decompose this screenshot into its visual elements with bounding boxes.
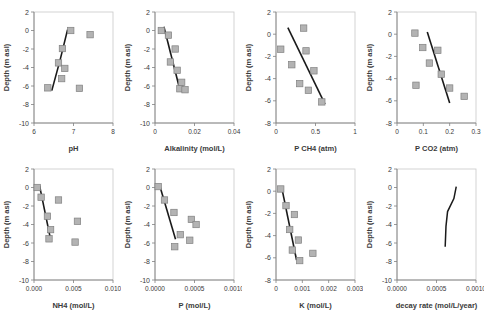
y-tick-label: -4 [386, 75, 392, 82]
y-tick-label: -10 [19, 277, 29, 284]
data-point [167, 59, 173, 65]
data-point [68, 27, 74, 33]
y-tick-label: 2 [388, 9, 392, 16]
x-tick-label: 0.0005 [427, 285, 447, 292]
data-point [46, 236, 52, 242]
y-tick-label: -6 [265, 254, 271, 261]
data-point [291, 211, 297, 217]
x-tick-label: 6 [32, 128, 36, 135]
x-tick-label: 0.005 [65, 285, 82, 292]
y-tick-label: -10 [382, 277, 392, 284]
data-point [87, 31, 93, 37]
x-axis-title: pH [69, 144, 79, 153]
data-point [295, 237, 301, 243]
x-tick-label: 0 [153, 128, 157, 135]
y-tick-label: -10 [140, 277, 150, 284]
data-point [438, 71, 444, 77]
data-point [300, 25, 306, 31]
y-tick-label: -4 [144, 64, 150, 71]
chart-panel-3: -8-6-4-20200.51P CH4 (atm)Depth (m asl) [242, 0, 363, 157]
y-tick-label: 0 [146, 184, 150, 191]
y-axis-title: Depth (m asl) [2, 43, 11, 91]
plot-frame [34, 169, 113, 280]
y-tick-label: -2 [23, 203, 29, 210]
plot-frame [397, 12, 476, 123]
data-point [305, 87, 311, 93]
x-tick-label: 0.1 [419, 128, 428, 135]
y-tick-label: 2 [146, 166, 150, 173]
x-tick-label: 8 [111, 128, 115, 135]
x-tick-label: 0.0010 [466, 285, 484, 292]
y-tick-label: 0 [267, 31, 271, 38]
x-tick-label: 0.0000 [145, 285, 165, 292]
data-point [435, 47, 441, 53]
chart-panel-7: -8-6-4-20200.0010.0020.003K (mol/L)Depth… [242, 157, 363, 314]
y-tick-label: 2 [267, 166, 271, 173]
y-tick-label: -6 [23, 83, 29, 90]
y-tick-label: -2 [265, 53, 271, 60]
data-point [44, 213, 50, 219]
data-point [34, 184, 40, 190]
x-axis-title: P (mol/L) [179, 301, 211, 310]
chart-panel-8: -10-8-6-4-2020.00000.00050.0010decay rat… [363, 157, 484, 314]
y-tick-label: -6 [265, 97, 271, 104]
data-point [289, 247, 295, 253]
data-point [38, 194, 44, 200]
y-tick-label: -2 [144, 203, 150, 210]
plot-area-2: -10-8-6-4-20200.020.04Alkalinity (mol/L)… [121, 0, 242, 157]
chart-panel-6: -10-8-6-4-2020.00000.00050.0010P (mol/L)… [121, 157, 242, 314]
y-tick-label: 0 [146, 27, 150, 34]
x-tick-label: 0.0010 [224, 285, 242, 292]
data-point [59, 45, 65, 51]
data-point [187, 237, 193, 243]
data-point [178, 79, 184, 85]
y-tick-label: -10 [140, 120, 150, 127]
chart-panel-2: -10-8-6-4-20200.020.04Alkalinity (mol/L)… [121, 0, 242, 157]
x-tick-label: 0.000 [26, 285, 43, 292]
data-point [58, 75, 64, 81]
data-point [283, 202, 289, 208]
y-tick-label: -4 [23, 221, 29, 228]
x-tick-label: 0.02 [188, 128, 201, 135]
y-tick-label: -4 [265, 232, 271, 239]
x-tick-label: 0.0000 [387, 285, 407, 292]
y-tick-label: -4 [265, 75, 271, 82]
y-axis-title: Depth (m asl) [244, 43, 253, 91]
y-tick-label: 0 [25, 27, 29, 34]
x-tick-label: 0.010 [105, 285, 121, 292]
x-tick-label: 0.5 [311, 128, 320, 135]
data-point [161, 197, 167, 203]
x-tick-label: 0.002 [321, 285, 338, 292]
x-tick-label: 0.0005 [185, 285, 205, 292]
y-tick-label: -6 [23, 240, 29, 247]
y-tick-label: 2 [25, 9, 29, 16]
data-point [278, 46, 284, 52]
y-tick-label: -2 [144, 46, 150, 53]
y-tick-label: -6 [386, 240, 392, 247]
data-point [47, 226, 53, 232]
x-tick-label: 0.2 [445, 128, 454, 135]
y-tick-label: 2 [388, 166, 392, 173]
y-tick-label: 2 [146, 9, 150, 16]
x-axis-title: decay rate (mol/L/year) [396, 301, 478, 310]
plot-area-5: -10-8-6-4-2020.0000.0050.010NH4 (mol/L)D… [0, 157, 121, 314]
x-tick-label: 0 [274, 128, 278, 135]
x-axis-title: Alkalinity (mol/L) [164, 144, 225, 153]
plot-area-3: -8-6-4-20200.51P CH4 (atm)Depth (m asl) [242, 0, 363, 157]
y-axis-title: Depth (m asl) [123, 200, 132, 248]
y-tick-label: -6 [144, 240, 150, 247]
y-tick-label: -8 [386, 120, 392, 127]
y-tick-label: -8 [23, 258, 29, 265]
plot-area-7: -8-6-4-20200.0010.0020.003K (mol/L)Depth… [242, 157, 363, 314]
y-tick-label: -8 [144, 258, 150, 265]
y-tick-label: -8 [23, 101, 29, 108]
data-point [311, 68, 317, 74]
chart-panel-5: -10-8-6-4-2020.0000.0050.010NH4 (mol/L)D… [0, 157, 121, 314]
y-tick-label: 0 [388, 31, 392, 38]
plot-frame [155, 12, 234, 123]
data-point [412, 30, 418, 36]
data-point [286, 226, 292, 232]
data-point [74, 218, 80, 224]
data-point [193, 221, 199, 227]
y-axis-title: Depth (m asl) [244, 200, 253, 248]
